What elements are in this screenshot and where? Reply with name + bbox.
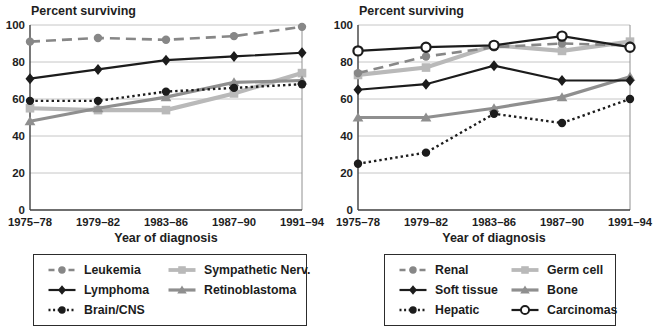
legend-key-dotted-circle-icon xyxy=(399,303,427,317)
square-marker-icon xyxy=(26,104,35,113)
circle-marker-icon xyxy=(626,95,634,103)
y-tick-label: 100 xyxy=(334,19,353,31)
legend-item-bone: Bone xyxy=(511,280,617,300)
legend-column: LeukemiaLymphomaBrain/CNS xyxy=(48,260,152,320)
circle-marker-icon xyxy=(58,306,65,313)
legend-label: Bone xyxy=(547,283,578,297)
legend-label: Hepatic xyxy=(435,303,479,317)
legend-key-solid-triangle-icon xyxy=(168,283,196,297)
diamond-marker-icon xyxy=(298,47,307,58)
right-chart-legend: RenalSoft tissueHepaticGerm cellBoneCarc… xyxy=(384,254,616,326)
legend-item-carcinomas: Carcinomas xyxy=(511,300,617,320)
circle-marker-icon xyxy=(354,69,362,77)
diamond-marker-icon xyxy=(558,75,567,86)
diamond-marker-icon xyxy=(94,64,103,75)
series-retinoblastoma xyxy=(25,76,308,126)
circle-marker-icon xyxy=(94,34,102,42)
legend-item-lymphoma: Lymphoma xyxy=(48,280,152,300)
legend-label: Soft tissue xyxy=(435,283,498,297)
legend-item-sympathetic-nerv: Sympathetic Nerv. xyxy=(168,260,310,280)
x-tick-label: 1991–94 xyxy=(280,216,325,228)
y-tick-label: 100 xyxy=(6,19,25,31)
circle-marker-icon xyxy=(409,266,416,273)
square-marker-icon xyxy=(521,266,529,274)
open-circle-marker-icon xyxy=(557,31,566,40)
legend-label: Carcinomas xyxy=(547,303,617,317)
diamond-marker-icon xyxy=(26,73,35,84)
x-tick-label: 1983–86 xyxy=(144,216,188,228)
y-tick-label: 60 xyxy=(12,93,25,105)
legend-item-retinoblastoma: Retinoblastoma xyxy=(168,280,310,300)
x-tick-label: 1987–90 xyxy=(540,216,584,228)
legend-label: Sympathetic Nerv. xyxy=(204,263,310,277)
circle-marker-icon xyxy=(354,160,362,168)
legend-key-dashed-circle-icon xyxy=(399,263,427,277)
legend-label: Lymphoma xyxy=(84,283,149,297)
legend-label: Retinoblastoma xyxy=(204,283,296,297)
circle-marker-icon xyxy=(26,97,34,105)
legend-column: Germ cellBoneCarcinomas xyxy=(511,260,617,320)
y-tick-label: 20 xyxy=(340,167,353,179)
x-tick-label: 1975–78 xyxy=(8,216,52,228)
square-marker-icon xyxy=(422,63,431,72)
y-tick-label: 40 xyxy=(12,130,25,142)
square-marker-icon xyxy=(162,106,171,115)
y-tick-label: 0 xyxy=(347,204,353,216)
legend-item-hepatic: Hepatic xyxy=(399,300,495,320)
chart-title: Percent surviving xyxy=(359,4,464,18)
diamond-marker-icon xyxy=(422,79,431,90)
left-chart-panel: 020406080100Percent surviving1975–781979… xyxy=(0,0,328,336)
chart-svg: 020406080100Percent surviving1975–781979… xyxy=(328,0,656,246)
x-tick-label: 1987–90 xyxy=(212,216,256,228)
y-tick-label: 0 xyxy=(19,204,25,216)
legend-item-germ-cell: Germ cell xyxy=(511,260,617,280)
series-lymphoma xyxy=(26,47,307,84)
legend-item-renal: Renal xyxy=(399,260,495,280)
circle-marker-icon xyxy=(490,110,498,118)
series-soft-tissue xyxy=(354,60,635,95)
legend-key-solid-open-circle-icon xyxy=(511,303,539,317)
open-circle-marker-icon xyxy=(421,43,430,52)
legend-label: Brain/CNS xyxy=(84,303,145,317)
diamond-marker-icon xyxy=(230,51,239,62)
right-line-chart: 020406080100Percent surviving1975–781979… xyxy=(328,0,656,246)
x-tick-label: 1979–82 xyxy=(76,216,120,228)
legend-item-soft-tissue: Soft tissue xyxy=(399,280,495,300)
circle-marker-icon xyxy=(94,97,102,105)
chart-title: Percent surviving xyxy=(31,4,136,18)
circle-marker-icon xyxy=(298,23,306,31)
circle-marker-icon xyxy=(230,84,238,92)
x-tick-label: 1975–78 xyxy=(336,216,380,228)
series-leukemia xyxy=(26,23,306,46)
y-tick-label: 20 xyxy=(12,167,25,179)
legend-key-solid-diamond-icon xyxy=(399,283,427,297)
diamond-marker-icon xyxy=(58,285,66,295)
legend-key-solid-diamond-icon xyxy=(48,283,76,297)
circle-marker-icon xyxy=(162,87,170,95)
series-carcinomas xyxy=(353,31,634,55)
legend-item-leukemia: Leukemia xyxy=(48,260,152,280)
legend-key-solid-square-icon xyxy=(511,263,539,277)
legend-key-solid-triangle-icon xyxy=(511,283,539,297)
y-tick-label: 80 xyxy=(12,56,25,68)
legend-column: RenalSoft tissueHepatic xyxy=(399,260,495,320)
circle-marker-icon xyxy=(409,306,416,313)
y-tick-label: 60 xyxy=(340,93,353,105)
circle-marker-icon xyxy=(26,37,34,45)
open-circle-marker-icon xyxy=(521,306,529,314)
chart-svg: 020406080100Percent surviving1975–781979… xyxy=(0,0,328,246)
open-circle-marker-icon xyxy=(353,46,362,55)
pediatric-survival-figure: 020406080100Percent surviving1975–781979… xyxy=(0,0,656,336)
legend-item-brain-cns: Brain/CNS xyxy=(48,300,152,320)
circle-marker-icon xyxy=(58,266,65,273)
right-chart-panel: 020406080100Percent surviving1975–781979… xyxy=(328,0,656,336)
y-tick-label: 40 xyxy=(340,130,353,142)
y-tick-label: 80 xyxy=(340,56,353,68)
circle-marker-icon xyxy=(298,80,306,88)
x-axis-title: Year of diagnosis xyxy=(114,231,218,245)
x-tick-label: 1991–94 xyxy=(608,216,653,228)
open-circle-marker-icon xyxy=(489,41,498,50)
x-tick-label: 1983–86 xyxy=(472,216,516,228)
open-circle-marker-icon xyxy=(625,43,634,52)
legend-key-solid-square-icon xyxy=(168,263,196,277)
